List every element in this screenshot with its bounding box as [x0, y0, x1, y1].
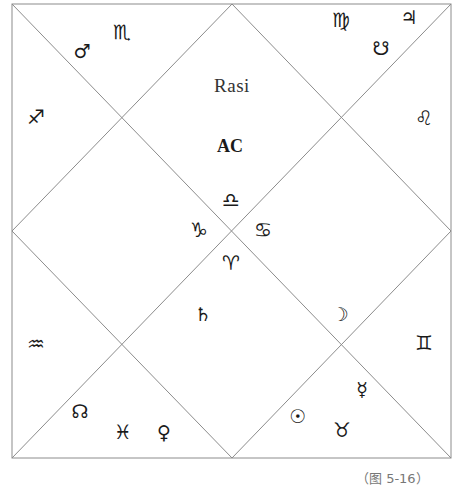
pisces-sign-icon: ♓: [114, 422, 132, 442]
virgo-sign-icon: ♍: [332, 10, 350, 30]
aries-sign-icon: ♈: [222, 253, 240, 273]
leo-sign-icon: ♌: [415, 108, 433, 128]
jupiter-planet-icon: ♃: [400, 8, 417, 27]
capricorn-sign-icon: ♑: [190, 220, 208, 240]
libra-sign-icon: ♎: [222, 190, 240, 210]
scorpio-sign-icon: ♏: [113, 22, 131, 42]
gemini-sign-icon: ♊: [415, 333, 433, 353]
ketu-planet-icon: ☋: [373, 39, 390, 58]
taurus-sign-icon: ♉: [333, 420, 351, 440]
saturn-planet-icon: ♄: [194, 305, 211, 324]
mars-planet-icon: ♂: [73, 42, 90, 61]
sagittarius-sign-icon: ♐: [27, 107, 45, 127]
aquarius-sign-icon: ♒: [27, 334, 45, 354]
ascendant-label: AC: [217, 136, 243, 157]
figure-caption: （图 5-16）: [356, 468, 429, 487]
chart-title: Rasi: [214, 75, 250, 97]
cancer-sign-icon: ♋: [254, 220, 272, 240]
rahu-planet-icon: ☊: [72, 402, 89, 421]
moon-planet-icon: ☽: [331, 305, 348, 324]
sun-planet-icon: ☉: [289, 407, 306, 426]
mercury-planet-icon: ☿: [356, 380, 368, 399]
venus-planet-icon: ♀: [157, 423, 171, 442]
